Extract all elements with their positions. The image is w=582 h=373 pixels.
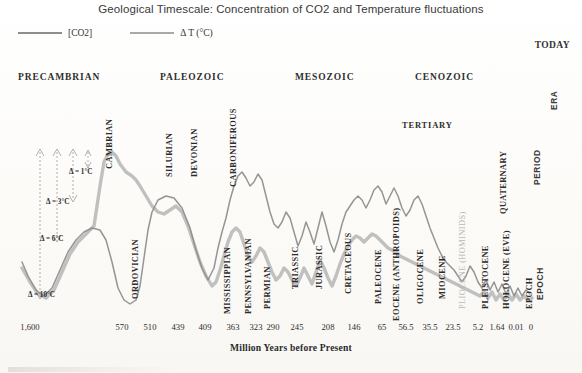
delta-annotation-4: Δ = 10°C: [28, 291, 55, 299]
period-label-jurassic: JURASSIC: [315, 245, 324, 289]
period-label-epoch: EPOCH: [525, 277, 534, 309]
period-label-quaternary: QUATERNARY: [499, 151, 508, 214]
x-tick-label: 363: [227, 322, 240, 332]
axis-column-label-era: ERA: [549, 91, 559, 110]
x-tick-label: 323: [250, 322, 263, 332]
period-label-permian: PERMIAN: [263, 266, 272, 309]
x-tick-label: 65: [378, 322, 387, 332]
period-label-cambrian: CAMBRIAN: [105, 119, 114, 169]
x-tick-label: 1.64: [489, 322, 504, 332]
x-tick-label: 570: [116, 322, 129, 332]
period-label-mississippian: MISSISSIPPIAN: [223, 247, 232, 314]
period-label-oligocene: OLIGOCENE: [416, 249, 425, 304]
x-tick-label: 510: [144, 322, 157, 332]
x-tick-label: 245: [291, 322, 304, 332]
period-label-pennsylvanian: PENNSYLVANIAN: [244, 238, 253, 314]
x-tick-label: 56.5: [398, 322, 413, 332]
scan-artifact: [8, 367, 178, 372]
period-label-holocene-eve: HOLOCENE (EVE): [502, 230, 511, 309]
period-label-ordovician: ORDOVICIAN: [131, 239, 140, 299]
x-tick-label: 1,600: [20, 322, 39, 332]
x-tick-label: 5.2: [473, 322, 484, 332]
period-label-carboniferous: CARBONIFEROUS: [229, 108, 238, 187]
period-label-paleocene: PALEOCENE: [374, 249, 383, 304]
delta-annotation-2: Δ = 3°C: [46, 198, 69, 206]
axis-column-label-epoch: EPOCH: [535, 267, 545, 300]
x-tick-label: 146: [348, 322, 361, 332]
x-tick-label: 409: [199, 322, 212, 332]
period-label-miocene: MIOCENE: [438, 255, 447, 299]
period-label-pleistocene: PLEISTOCENE: [481, 245, 490, 309]
chart-plot-area: [0, 0, 582, 373]
period-label-silurian: SILURIAN: [165, 133, 174, 177]
period-label-triassic: TRIASSIC: [291, 246, 300, 289]
delta-annotation-1: Δ = 1°C: [69, 168, 92, 176]
x-axis-title: Million Years before Present: [0, 342, 582, 353]
delta-annotation-3: Δ = 6°C: [40, 235, 63, 243]
x-tick-label: 208: [322, 322, 335, 332]
axis-column-label-period: PERIOD: [532, 149, 542, 185]
period-label-cretaceous: CRETACEOUS: [344, 232, 353, 294]
x-tick-label: 290: [267, 322, 280, 332]
period-label-pliocene-hominids: PLIOCENE (HOMINIDS): [458, 211, 467, 309]
x-tick-label: 0: [529, 322, 533, 332]
period-label-eocene-anthropoids: EOCENE (ANTHROPOIDS): [392, 208, 401, 321]
x-tick-label: 35.5: [422, 322, 437, 332]
x-tick-label: 0.01: [508, 322, 523, 332]
period-label-devonian: DEVONIAN: [190, 128, 199, 177]
x-tick-label: 23.5: [445, 322, 460, 332]
x-tick-label: 439: [172, 322, 185, 332]
x-axis-ticks: 1,6005705104394093633232902452081466556.…: [0, 322, 582, 336]
